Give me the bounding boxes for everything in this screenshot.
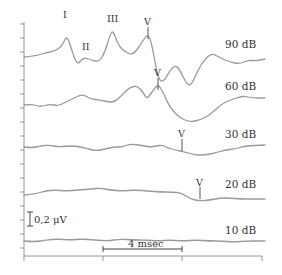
peak-label-V-20: V — [195, 177, 203, 188]
amplitude-scale-bar: 0,2 μV — [27, 212, 68, 226]
peak-label-II: II — [82, 41, 90, 52]
peak-label-V-90: V — [143, 16, 151, 27]
series-label-20db: 20 dB — [225, 178, 256, 190]
peak-label-III: III — [107, 13, 119, 24]
series-label-90db: 90 dB — [225, 38, 256, 50]
trace-30db — [24, 144, 265, 155]
series-label-30db: 30 dB — [225, 128, 256, 140]
peak-tick-marks — [148, 27, 200, 199]
amplitude-scale-label: 0,2 μV — [34, 214, 68, 225]
x-axis — [24, 256, 262, 261]
trace-20db — [24, 188, 265, 200]
series-label-10db: 10 dB — [225, 224, 256, 236]
abr-waveform-chart: I II III V V V V 90 dB 60 dB 30 dB 20 dB… — [0, 0, 282, 275]
time-scale-label: 4 msec — [128, 238, 164, 249]
series-label-60db: 60 dB — [225, 80, 256, 92]
peak-label-V-30: V — [177, 128, 185, 139]
peak-label-I: I — [63, 9, 67, 20]
peak-label-V-60: V — [153, 67, 161, 78]
